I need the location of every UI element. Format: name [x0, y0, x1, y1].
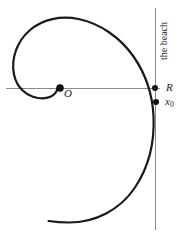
diagram-canvas [0, 0, 184, 236]
start-point-dot [153, 99, 159, 105]
spiral-diagram-figure: O R x0 the beach [0, 0, 184, 236]
start-point-label-subscript: 0 [170, 100, 174, 109]
start-point-label: x0 [165, 96, 174, 109]
radius-label: R [166, 82, 173, 93]
radius-point-dot [152, 85, 158, 91]
beach-label: the beach [159, 22, 169, 60]
spiral-curve [13, 18, 153, 223]
origin-point-dot [56, 84, 64, 92]
origin-label: O [64, 88, 72, 99]
